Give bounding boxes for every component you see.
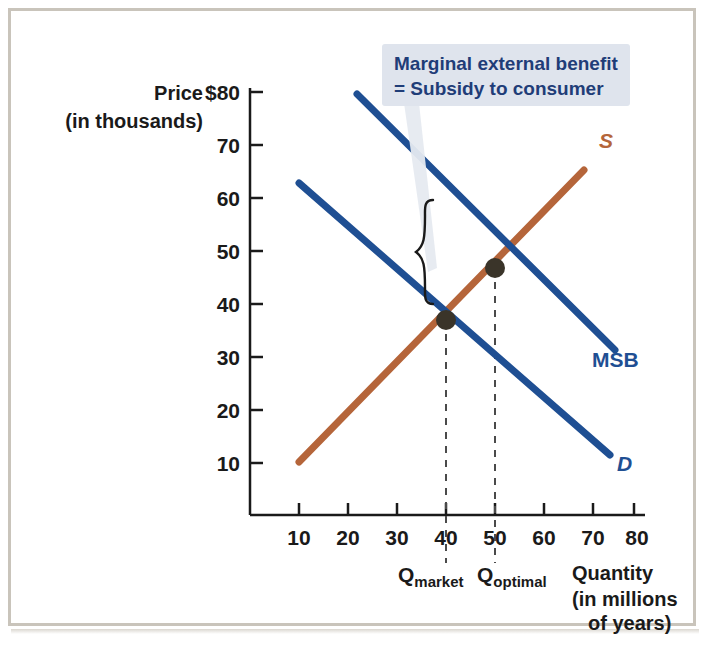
y-tick-label-60: 60 (217, 187, 240, 210)
q-market-label: Qmarket (398, 563, 464, 590)
y-axis-ticks (250, 92, 263, 463)
figure-container: $80 70 60 50 40 30 20 10 Price (in thous… (0, 0, 721, 655)
q-market-subscript: market (414, 573, 463, 590)
demand-curve-label: D (617, 452, 632, 475)
x-tick-label-10: 10 (287, 526, 310, 549)
callout-text-line2: = Subsidy to consumer (394, 78, 604, 99)
q-market-letter: Q (398, 563, 414, 586)
economics-chart: $80 70 60 50 40 30 20 10 Price (in thous… (0, 0, 721, 655)
y-axis-title-line2: (in thousands) (65, 110, 203, 132)
x-axis-title-line3: of years) (588, 612, 671, 634)
x-tick-label-60: 60 (532, 526, 555, 549)
msb-curve (357, 94, 615, 350)
y-tick-label-30: 30 (217, 346, 240, 369)
x-tick-label-20: 20 (336, 526, 359, 549)
msb-curve-label: MSB (592, 348, 639, 371)
x-axis-title-line2: (in millions (572, 588, 678, 610)
y-tick-label-70: 70 (217, 134, 240, 157)
q-optimal-subscript: optimal (493, 573, 546, 590)
x-tick-label-80: 80 (625, 526, 648, 549)
y-axis-title-line1: Price (154, 82, 203, 104)
svg-text:Qmarket: Qmarket (398, 563, 464, 590)
x-axis-ticks (299, 503, 634, 515)
equilibrium-point-market (436, 310, 456, 330)
supply-curve-label: S (599, 129, 613, 152)
q-optimal-letter: Q (477, 563, 493, 586)
equilibrium-point-optimal (485, 258, 505, 278)
q-optimal-label: Qoptimal (477, 563, 547, 590)
y-tick-label-50: 50 (217, 240, 240, 263)
y-tick-label-80: $80 (205, 81, 240, 104)
svg-text:Qoptimal: Qoptimal (477, 563, 547, 590)
x-tick-label-70: 70 (581, 526, 604, 549)
callout-text-line1: Marginal external benefit (394, 53, 619, 74)
x-axis-title-line1: Quantity (572, 562, 654, 584)
y-tick-label-10: 10 (217, 452, 240, 475)
y-tick-label-20: 20 (217, 399, 240, 422)
y-tick-label-40: 40 (217, 293, 240, 316)
x-tick-label-30: 30 (385, 526, 408, 549)
